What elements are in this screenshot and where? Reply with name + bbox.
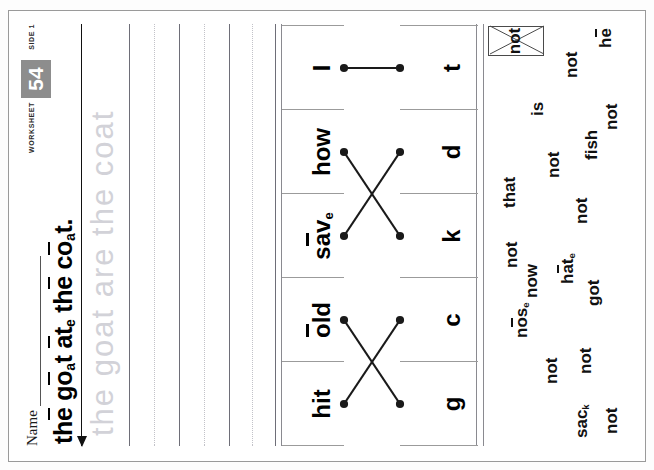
- word-bank-item-sack[interactable]: sack: [572, 404, 592, 438]
- traced-model-text: the goat are the coat: [85, 110, 121, 436]
- word-bank-item-not-8[interactable]: not: [562, 52, 582, 78]
- rule-solid-2: [179, 24, 180, 446]
- word-bank-item-not-4[interactable]: not: [502, 242, 522, 268]
- word-bank[interactable]: not not sack not not nose now not got ha…: [483, 24, 634, 446]
- boxed-example-word[interactable]: not: [488, 26, 544, 56]
- side-caption: SIDE 1: [28, 24, 35, 50]
- matching-lines: [282, 24, 478, 446]
- handwriting-practice-band[interactable]: the goat are the coat: [81, 24, 277, 446]
- rule-solid-1: [129, 24, 130, 446]
- title-sentence: the goat ate the coat.: [49, 24, 78, 444]
- name-label: Name: [24, 410, 41, 446]
- rule-dotted-3: [252, 24, 253, 446]
- name-row: Name: [23, 216, 41, 446]
- rule-dotted-1: [154, 24, 155, 446]
- worksheet-page: Name WORKSHEET 54 SIDE 1 the goat ate th…: [0, 0, 654, 470]
- word-bank-item-not-1[interactable]: not: [602, 408, 622, 434]
- word-bank-item-nose[interactable]: nose: [512, 302, 532, 338]
- rule-dotted-2: [204, 24, 205, 446]
- word-bank-item-fish[interactable]: fish: [582, 130, 602, 160]
- word-bank-item-not-7[interactable]: not: [602, 104, 622, 130]
- worksheet-sheet: Name WORKSHEET 54 SIDE 1 the goat ate th…: [9, 10, 645, 460]
- word-bank-item-hate[interactable]: hate: [558, 253, 578, 284]
- word-bank-item-is[interactable]: is: [528, 102, 548, 116]
- boxed-word-text: not: [505, 27, 525, 55]
- word-bank-item-not-3[interactable]: not: [542, 358, 562, 384]
- word-bank-item-got[interactable]: got: [584, 280, 604, 306]
- rule-solid-4: [275, 24, 276, 446]
- word-bank-item-not-6[interactable]: not: [544, 152, 564, 178]
- word-bank-item-now[interactable]: now: [522, 264, 542, 298]
- name-input-rule[interactable]: [28, 256, 41, 406]
- baseline-arrow-line: [81, 24, 82, 446]
- word-bank-item-that[interactable]: that: [500, 177, 520, 208]
- word-bank-item-not-2[interactable]: not: [576, 348, 596, 374]
- rule-solid-3: [229, 24, 230, 446]
- worksheet-caption: WORKSHEET: [28, 102, 35, 153]
- worksheet-number-badge: 54: [21, 60, 51, 98]
- word-bank-item-he[interactable]: he: [596, 28, 616, 48]
- arrow-head-icon: [77, 436, 87, 447]
- word-bank-item-not-5[interactable]: not: [572, 198, 592, 224]
- matching-exercise[interactable]: hit old save how I g c k d t: [281, 24, 477, 446]
